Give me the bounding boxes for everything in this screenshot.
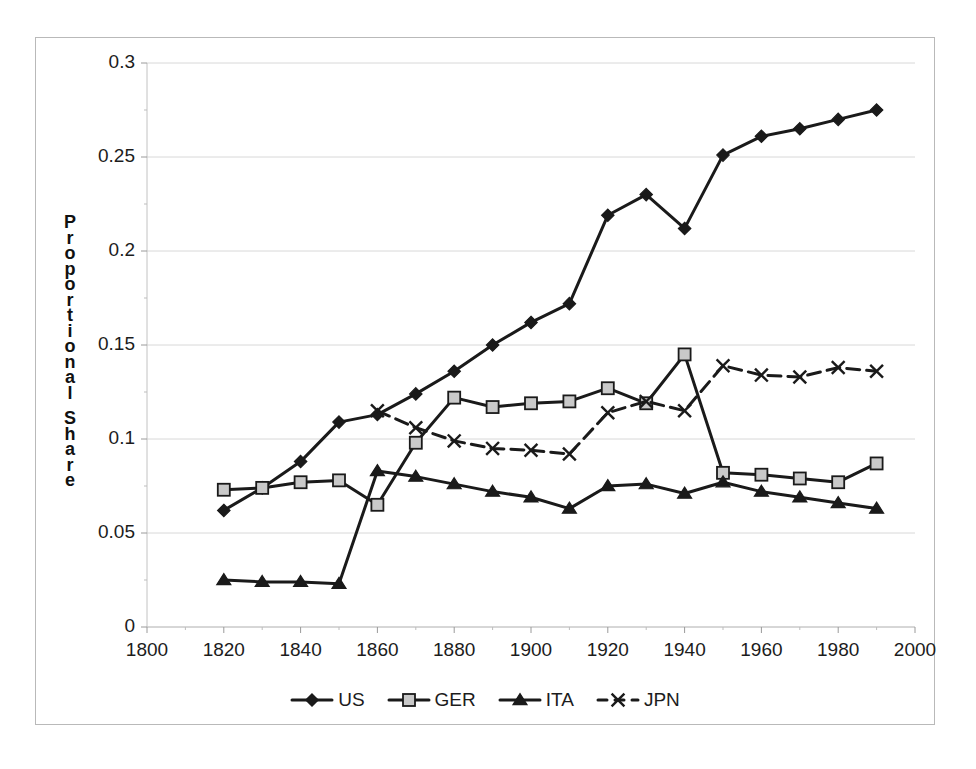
marker-square <box>403 694 415 706</box>
y-tick-label: 0.05 <box>98 521 135 543</box>
y-axis-title-char: e <box>57 473 83 489</box>
legend-marker-cross-icon <box>596 690 640 710</box>
legend-item-jpn[interactable]: JPN <box>596 689 680 711</box>
chart-frame <box>35 37 935 725</box>
y-tick-label: 0.25 <box>98 145 135 167</box>
marker-diamond <box>306 694 318 706</box>
legend-marker-diamond-icon <box>290 690 334 710</box>
chart-legend: USGERITAJPN <box>35 686 935 714</box>
legend-label: ITA <box>546 689 574 711</box>
legend-item-ger[interactable]: GER <box>387 689 476 711</box>
x-tick-label: 2000 <box>870 639 960 661</box>
y-tick-label: 0.2 <box>109 239 135 261</box>
y-axis-title-char: l <box>57 386 83 402</box>
legend-marker-triangle-icon <box>498 690 542 710</box>
legend-item-ita[interactable]: ITA <box>498 689 574 711</box>
chart-page: ProportionalShare 00.050.10.150.20.250.3… <box>0 0 976 769</box>
y-axis-title: ProportionalShare <box>57 215 83 489</box>
legend-label: US <box>338 689 364 711</box>
y-tick-label: 0.1 <box>109 427 135 449</box>
legend-label: JPN <box>644 689 680 711</box>
y-tick-label: 0.3 <box>109 51 135 73</box>
y-tick-label: 0.15 <box>98 333 135 355</box>
legend-item-us[interactable]: US <box>290 689 364 711</box>
y-tick-label: 0 <box>124 615 135 637</box>
legend-marker-square-icon <box>387 690 431 710</box>
legend-label: GER <box>435 689 476 711</box>
